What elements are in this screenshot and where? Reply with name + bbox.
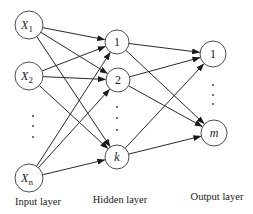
node-label: 1	[210, 47, 216, 61]
node-label: 1	[114, 35, 120, 49]
node-h2: 2	[106, 68, 130, 92]
ellipsis-dot	[116, 129, 118, 131]
ellipsis-dot	[212, 94, 214, 96]
node-subscript: n	[28, 177, 33, 187]
edge-xn-h2	[38, 89, 109, 167]
ellipsis-dot	[212, 84, 214, 86]
edge-h2-o1	[130, 58, 200, 77]
edge-hk-om	[129, 136, 201, 154]
node-subscript: 1	[28, 24, 33, 34]
node-subscript: 2	[28, 75, 33, 85]
node-om: m	[201, 120, 227, 146]
edge-x2-h2	[43, 77, 106, 80]
ellipsis-dot	[32, 115, 34, 117]
node-x2: X2	[15, 62, 43, 90]
layer-labels: Input layerHidden layerOutput layer	[15, 191, 244, 207]
edge-h1-o1	[129, 43, 200, 52]
ellipsis-dot	[32, 136, 34, 138]
edge-x1-h1	[43, 28, 105, 40]
edge-xn-hk	[43, 160, 105, 175]
edge-h1-om	[126, 50, 204, 124]
ellipsis-dot	[32, 125, 34, 127]
node-xn: Xn	[15, 164, 43, 192]
node-x1: X1	[15, 11, 43, 39]
edge-x1-hk	[37, 37, 110, 147]
node-label: k	[114, 150, 120, 164]
edge-xn-h1	[37, 52, 111, 166]
layer-label-hidden: Hidden layer	[93, 194, 148, 205]
layer-label-output: Output layer	[191, 191, 244, 202]
neural-network-diagram: X1X2Xn12k1m Input layerHidden layerOutpu…	[0, 0, 253, 214]
ellipsis-dot	[212, 103, 214, 105]
ellipsis-dot	[116, 117, 118, 119]
node-o1: 1	[200, 41, 226, 67]
node-label: m	[210, 126, 219, 140]
edge-hk-o1	[125, 64, 204, 148]
edge-h2-om	[129, 86, 203, 127]
node-label: 2	[115, 73, 121, 87]
nodes: X1X2Xn12k1m	[15, 11, 227, 192]
layer-label-input: Input layer	[15, 196, 61, 207]
node-hk: k	[105, 145, 129, 169]
ellipsis-dot	[116, 106, 118, 108]
edge-x2-hk	[39, 85, 108, 148]
node-h1: 1	[105, 30, 129, 54]
ellipsis-dots	[32, 84, 214, 138]
